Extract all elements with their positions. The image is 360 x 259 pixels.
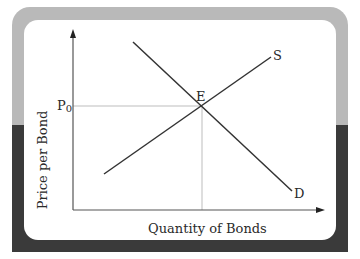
demand-curve — [133, 42, 292, 191]
supply-label: S — [273, 48, 282, 63]
x-axis-arrow-icon — [316, 207, 325, 213]
bond-market-diagram: P0 E S D Quantity of Bonds Price per Bon… — [0, 0, 360, 259]
y-axis-arrow-icon — [70, 29, 76, 38]
price-tick-label: P0 — [57, 98, 72, 114]
supply-curve — [104, 57, 271, 174]
equilibrium-label: E — [196, 89, 206, 104]
diagram-stage: P0 E S D Quantity of Bonds Price per Bon… — [0, 0, 360, 259]
y-axis-label: Price per Bond — [35, 111, 50, 210]
x-axis-label: Quantity of Bonds — [148, 221, 267, 236]
demand-label: D — [294, 186, 304, 201]
